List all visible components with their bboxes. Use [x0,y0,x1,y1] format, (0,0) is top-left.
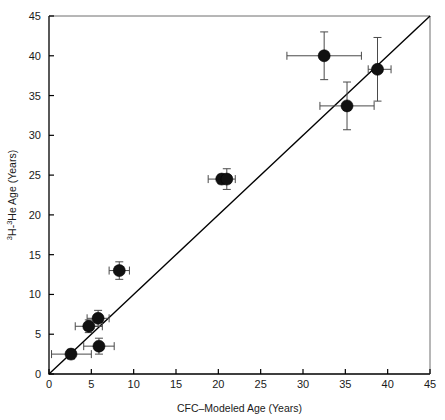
y-tick-label: 40 [29,50,41,62]
x-tick-label: 45 [424,378,436,390]
x-tick-label: 0 [46,378,52,390]
data-point [92,312,104,324]
x-tick-label: 5 [88,378,94,390]
y-tick-label: 20 [29,209,41,221]
y-tick-label: 30 [29,129,41,141]
y-tick-label: 5 [35,328,41,340]
data-point [341,100,353,112]
figure-container: 051015202530354045 051015202530354045 CF… [0,0,445,420]
x-tick-label: 15 [170,378,182,390]
y-tick-label: 10 [29,288,41,300]
data-point [113,265,125,277]
x-tick-label: 25 [255,378,267,390]
y-axis-title-text: 3H-3He Age (Years) [5,150,18,240]
data-point [221,173,233,185]
y-title-mid-1: H- [6,224,18,236]
data-point [65,348,77,360]
y-title-mid-2: He Age (Years) [6,150,18,221]
y-axis-title: 3H-3He Age (Years) [5,150,18,240]
x-tick-label: 20 [212,378,224,390]
x-axis-title: CFC–Modeled Age (Years) [177,402,302,414]
x-tick-label: 30 [297,378,309,390]
y-tick-label: 25 [29,169,41,181]
x-tick-label: 40 [382,378,394,390]
y-tick-label: 45 [29,10,41,22]
data-point [83,320,95,332]
y-tick-label: 15 [29,249,41,261]
data-point [318,50,330,62]
data-point [372,63,384,75]
scatter-plot: 051015202530354045 051015202530354045 CF… [0,0,445,420]
y-tick-label: 35 [29,90,41,102]
x-axis-title-text: CFC–Modeled Age (Years) [177,402,302,414]
data-point [93,340,105,352]
x-tick-label: 35 [339,378,351,390]
y-tick-label: 0 [35,368,41,380]
x-tick-label: 10 [128,378,140,390]
